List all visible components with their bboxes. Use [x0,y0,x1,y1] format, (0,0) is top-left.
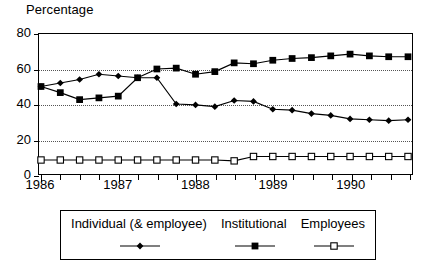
data-point [308,110,315,117]
data-point [308,153,314,159]
data-point [211,68,218,75]
chart-container: Percentage 020406080 1986198719881989199… [0,0,426,275]
data-point [250,60,257,67]
data-point [57,89,64,96]
x-tick-mark-7 [177,174,178,180]
data-point [38,83,45,90]
data-point [250,98,257,105]
series-2 [38,51,412,103]
y-tick-label-80: 80 [0,25,31,40]
legend-labels-row: Individual (& employee)InstitutionalEmpl… [61,216,375,231]
data-point [212,157,218,163]
x-tick-mark-11 [255,174,256,180]
x-tick-mark-6 [158,174,159,180]
data-point [57,157,63,163]
legend-key-3[interactable] [306,239,362,253]
data-point [96,95,103,102]
legend: Individual (& employee)InstitutionalEmpl… [60,210,376,260]
data-point [386,153,392,159]
data-point [308,54,315,61]
data-point [347,153,353,159]
x-tick-mark-5 [138,174,139,180]
data-point [405,116,412,123]
x-tick-label-1988: 1988 [181,177,210,192]
y-tick-label-40: 40 [0,96,31,111]
legend-label-3[interactable]: Employees [301,216,365,231]
data-point [269,57,276,64]
data-point [405,53,412,60]
data-point [289,153,295,159]
data-point [347,116,354,123]
data-point [289,55,296,62]
data-point [115,73,122,80]
data-point [154,157,160,163]
data-point [231,158,237,164]
data-point [96,71,103,78]
data-point [76,96,83,103]
data-point [366,116,373,123]
x-tick-mark-3 [99,174,100,180]
data-point [173,157,179,163]
legend-label-1[interactable]: Individual (& employee) [71,216,207,231]
y-axis-title: Percentage [26,2,94,17]
x-tick-mark-17 [371,174,372,180]
data-point [385,117,392,124]
x-tick-mark-13 [293,174,294,180]
data-point [76,157,82,163]
series-line [41,54,408,100]
data-point [38,157,44,163]
data-point [366,53,373,60]
series-3 [38,153,411,164]
x-tick-label-1989: 1989 [259,177,288,192]
data-point [328,153,334,159]
data-point [211,103,218,110]
data-point [347,51,354,58]
data-point [154,66,161,73]
legend-key-1[interactable] [112,239,168,253]
y-tick-label-20: 20 [0,132,31,147]
data-point [76,76,83,83]
data-point [385,53,392,60]
data-point [192,157,198,163]
data-point [270,153,276,159]
data-point [192,71,199,78]
data-point [96,157,102,163]
x-tick-mark-15 [332,174,333,180]
legend-label-2[interactable]: Institutional [221,216,287,231]
data-point [173,65,180,72]
data-point [250,153,256,159]
data-point [269,106,276,113]
x-tick-mark-14 [313,174,314,180]
x-tick-mark-2 [80,174,81,180]
y-tick-label-60: 60 [0,61,31,76]
data-point [57,80,64,87]
x-tick-mark-18 [391,174,392,180]
data-point [327,112,334,119]
data-point [192,102,199,109]
legend-key-2[interactable] [227,239,283,253]
x-tick-label-1987: 1987 [103,177,132,192]
data-point [289,107,296,114]
data-point [405,153,411,159]
plot-area [38,33,413,175]
data-point [115,157,121,163]
x-tick-label-1986: 1986 [26,177,55,192]
x-tick-label-1990: 1990 [336,177,365,192]
x-tick-mark-9 [216,174,217,180]
data-point [134,74,141,81]
data-series-layer [39,34,412,174]
x-tick-mark-1 [60,174,61,180]
data-point [134,157,140,163]
x-tick-mark-19 [410,174,411,180]
data-point [366,153,372,159]
data-point [327,53,334,60]
data-point [231,60,238,67]
data-point [115,93,122,100]
series-1 [38,71,412,124]
x-tick-mark-10 [235,174,236,180]
data-point [231,97,238,104]
